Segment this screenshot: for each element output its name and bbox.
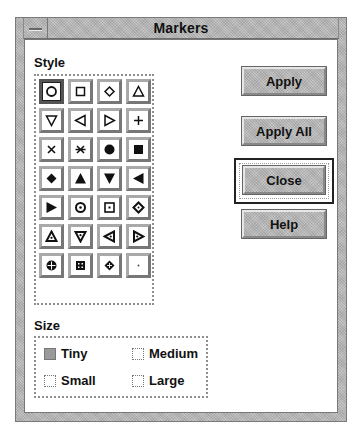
radio-indicator [44, 375, 56, 387]
diamond-cross-icon [103, 259, 116, 272]
triangle-right-dot-icon [132, 230, 145, 243]
diamond-open-icon [103, 85, 116, 98]
marker-style-grid [34, 74, 154, 305]
square-open-icon [74, 85, 87, 98]
marker-circle-filled[interactable] [97, 137, 122, 162]
circle-dot-icon [74, 201, 87, 214]
marker-diamond-open[interactable] [97, 79, 122, 104]
marker-triangle-up-filled[interactable] [68, 166, 93, 191]
radio-indicator [132, 348, 144, 360]
marker-plus[interactable] [126, 108, 151, 133]
triangle-left-open-icon [74, 114, 87, 127]
triangle-down-dot-icon [74, 230, 87, 243]
marker-circle-dot[interactable] [68, 195, 93, 220]
marker-diamond-filled[interactable] [39, 166, 64, 191]
marker-triangle-up-open[interactable] [126, 79, 151, 104]
triangle-right-open-icon [103, 114, 116, 127]
triangle-left-filled-icon [132, 172, 145, 185]
triangle-up-filled-icon [74, 172, 87, 185]
marker-cross[interactable] [39, 137, 64, 162]
marker-triangle-left-open[interactable] [68, 108, 93, 133]
marker-diamond-cross[interactable] [97, 253, 122, 278]
size-label: Size [34, 318, 60, 333]
marker-triangle-left-filled[interactable] [126, 166, 151, 191]
marker-circle-cross[interactable] [39, 253, 64, 278]
radio-indicator [132, 375, 144, 387]
marker-square-dot[interactable] [97, 195, 122, 220]
dialog-body: Style [24, 39, 338, 413]
marker-diamond-dot[interactable] [126, 195, 151, 220]
cross-icon [45, 143, 58, 156]
circle-filled-icon [103, 143, 116, 156]
marker-point[interactable] [126, 253, 151, 278]
apply-button[interactable]: Apply [242, 67, 326, 95]
size-option-medium[interactable]: Medium [132, 346, 198, 361]
marker-triangle-down-open[interactable] [39, 108, 64, 133]
marker-triangle-right-filled[interactable] [39, 195, 64, 220]
marker-triangle-left-dot[interactable] [97, 224, 122, 249]
size-option-label: Large [149, 373, 184, 388]
triangle-left-dot-icon [103, 230, 116, 243]
square-filled-icon [132, 143, 145, 156]
close-button[interactable]: Close [243, 166, 325, 194]
size-option-small[interactable]: Small [44, 373, 96, 388]
marker-square-filled[interactable] [126, 137, 151, 162]
diamond-dot-icon [132, 201, 145, 214]
window-title: Markers [24, 20, 338, 36]
circle-open-icon [45, 85, 58, 98]
triangle-right-filled-icon [45, 201, 58, 214]
triangle-down-filled-icon [103, 172, 116, 185]
asterisk-icon [74, 143, 87, 156]
square-cross-icon [74, 259, 87, 272]
size-option-large[interactable]: Large [132, 373, 184, 388]
marker-circle-open[interactable] [39, 79, 64, 104]
marker-triangle-right-open[interactable] [97, 108, 122, 133]
marker-square-open[interactable] [68, 79, 93, 104]
size-option-label: Tiny [61, 346, 88, 361]
markers-dialog: Markers Style [15, 17, 347, 422]
triangle-down-open-icon [45, 114, 58, 127]
plus-icon [132, 114, 145, 127]
circle-cross-icon [45, 259, 58, 272]
marker-square-cross[interactable] [68, 253, 93, 278]
marker-triangle-down-dot[interactable] [68, 224, 93, 249]
marker-triangle-down-filled[interactable] [97, 166, 122, 191]
square-dot-icon [103, 201, 116, 214]
close-default-frame: Close [234, 158, 334, 204]
triangle-up-open-icon [132, 85, 145, 98]
style-label: Style [34, 55, 65, 70]
diamond-filled-icon [45, 172, 58, 185]
size-radio-group: Tiny Medium Small Large [34, 336, 208, 398]
size-option-label: Medium [149, 346, 198, 361]
size-option-tiny[interactable]: Tiny [44, 346, 88, 361]
marker-triangle-right-dot[interactable] [126, 224, 151, 249]
marker-asterisk[interactable] [68, 137, 93, 162]
apply-all-button[interactable]: Apply All [242, 117, 326, 145]
title-bar[interactable]: Markers [23, 18, 339, 39]
radio-indicator-selected [44, 348, 56, 360]
help-button[interactable]: Help [242, 210, 326, 238]
triangle-up-dot-icon [45, 230, 58, 243]
point-icon [132, 259, 145, 272]
size-option-label: Small [61, 373, 96, 388]
marker-triangle-up-dot[interactable] [39, 224, 64, 249]
